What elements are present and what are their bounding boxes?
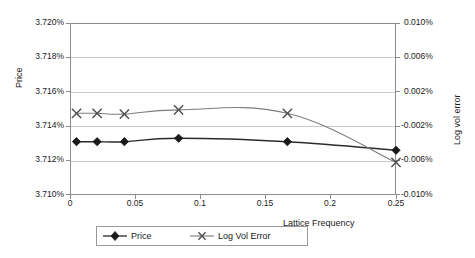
y-axis-left-tick-label: 3.716% bbox=[8, 87, 64, 96]
y-axis-right-tickmark bbox=[396, 160, 400, 161]
y-axis-right-tickmark bbox=[396, 57, 400, 58]
legend-item-log-vol-error[interactable]: Log Vol Error bbox=[189, 227, 271, 245]
legend-item-price[interactable]: Price bbox=[102, 227, 152, 245]
legend-label-log-vol-error: Log Vol Error bbox=[218, 230, 271, 242]
gridline bbox=[71, 126, 395, 127]
x-axis-tick-label: 0.15 bbox=[245, 199, 285, 208]
y-axis-left-tick-label: 3.714% bbox=[8, 121, 64, 130]
y-axis-right-tick-label: -0.010% bbox=[401, 190, 461, 199]
y-axis-left-title: Price bbox=[14, 67, 24, 88]
plot-area bbox=[70, 23, 396, 195]
y-axis-right-tick-label: 0.006% bbox=[404, 52, 464, 61]
y-axis-right-tick-label: 0.010% bbox=[404, 18, 464, 27]
x-axis-tickmark bbox=[265, 195, 266, 199]
x-axis-tickmark bbox=[135, 195, 136, 199]
x-axis-tick-label: 0 bbox=[50, 199, 90, 208]
y-axis-left-tickmark bbox=[66, 23, 70, 24]
legend: Price Log Vol Error bbox=[96, 226, 308, 246]
y-axis-left-tickmark bbox=[66, 57, 70, 58]
x-axis-tick-label: 0.2 bbox=[310, 199, 350, 208]
gridline bbox=[71, 57, 395, 58]
y-axis-right-tickmark bbox=[396, 126, 400, 127]
y-axis-left-tick-label: 3.720% bbox=[8, 18, 64, 27]
y-axis-left-tick-label: 3.712% bbox=[8, 155, 64, 164]
y-axis-right-tickmark bbox=[396, 23, 400, 24]
y-axis-left-tick-label: 3.710% bbox=[8, 190, 64, 199]
x-axis-tick-label: 0.25 bbox=[376, 199, 416, 208]
x-axis-tickmark bbox=[396, 195, 397, 199]
x-axis-tickmark bbox=[70, 195, 71, 199]
diamond-marker-icon bbox=[102, 230, 128, 242]
y-axis-right-tickmark bbox=[396, 91, 400, 92]
x-axis-tick-label: 0.1 bbox=[180, 199, 220, 208]
x-axis-tickmark bbox=[330, 195, 331, 199]
y-axis-right-tick-label: -0.006% bbox=[401, 155, 461, 164]
x-axis-tickmark bbox=[200, 195, 201, 199]
y-axis-left-tick-label: 3.718% bbox=[8, 52, 64, 61]
chart-container: 3.720% 3.718% 3.716% 3.714% 3.712% 3.710… bbox=[0, 0, 475, 258]
gridline bbox=[71, 161, 395, 162]
y-axis-right-title: Log vol error bbox=[452, 94, 462, 145]
y-axis-left-tickmark bbox=[66, 126, 70, 127]
x-axis-tick-label: 0.05 bbox=[115, 199, 155, 208]
gridline bbox=[71, 92, 395, 93]
y-axis-left-tickmark bbox=[66, 160, 70, 161]
legend-label-price: Price bbox=[131, 230, 152, 242]
y-axis-left-tickmark bbox=[66, 91, 70, 92]
x-marker-icon bbox=[189, 230, 215, 242]
